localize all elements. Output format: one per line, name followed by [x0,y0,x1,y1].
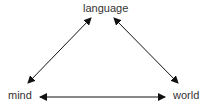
edge-language-world [114,18,178,83]
edge-language-mind [28,18,91,83]
diagram-edges [0,0,211,104]
